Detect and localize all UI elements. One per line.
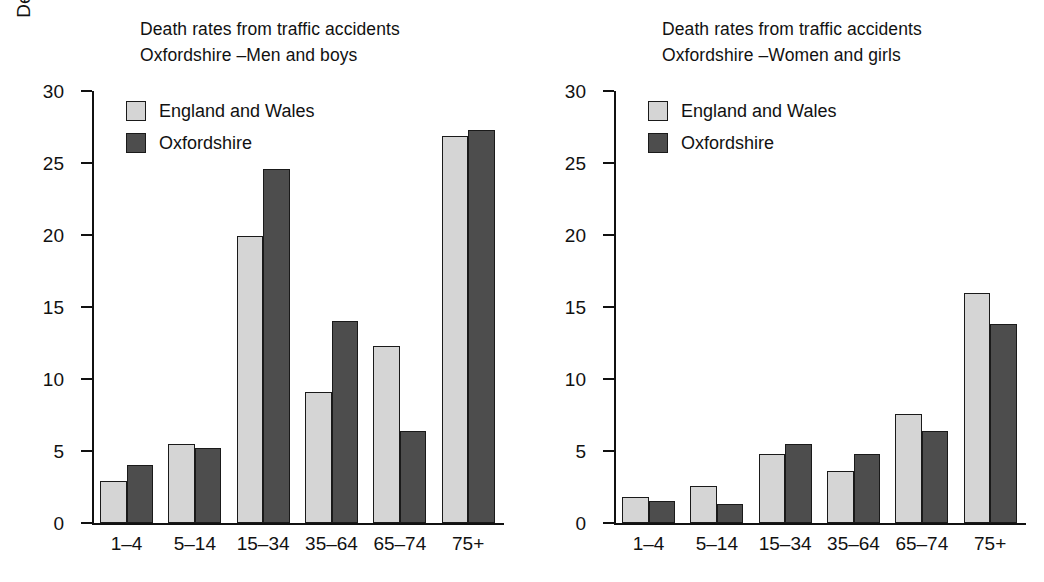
chart-panel-men-and-boys: Death rates from traffic accidents Oxfor… <box>0 0 522 582</box>
legend-swatch-icon-england-and-wales <box>648 101 668 121</box>
bar <box>649 501 676 523</box>
x-axis-tick-label: 5–14 <box>174 531 216 557</box>
y-axis-tick: 25 <box>603 162 614 164</box>
y-axis-tick-label: 20 <box>43 226 64 245</box>
legend-item-oxfordshire: Oxfordshire <box>648 127 836 159</box>
y-axis-tick-label: 20 <box>565 226 586 245</box>
bar <box>168 444 195 523</box>
bar <box>237 236 264 523</box>
legend-label: England and Wales <box>681 102 836 120</box>
y-axis-tick-label: 5 <box>53 442 64 461</box>
x-axis-tick-label: 5–14 <box>696 531 738 557</box>
y-axis-tick-label: 15 <box>565 298 586 317</box>
x-axis-tick-label: 1–4 <box>633 531 665 557</box>
y-axis-tick: 0 <box>81 522 92 524</box>
x-axis-tick-label: 1–4 <box>111 531 143 557</box>
x-axis-tick-label: 65–74 <box>895 531 948 557</box>
bar <box>622 497 649 523</box>
y-axis-tick: 5 <box>603 450 614 452</box>
y-axis-tick: 30 <box>81 90 92 92</box>
bar <box>442 136 469 523</box>
bar <box>827 471 854 523</box>
bar <box>964 293 991 523</box>
y-axis-tick-label: 15 <box>43 298 64 317</box>
bar <box>100 481 127 523</box>
x-axis-tick-label: 65–74 <box>373 531 426 557</box>
y-axis-tick-label: 25 <box>565 154 586 173</box>
y-axis-title: Deaths per 100,000 people <box>12 0 36 119</box>
y-axis-tick-label: 25 <box>43 154 64 173</box>
bar <box>127 465 154 523</box>
x-axis-line <box>92 523 504 525</box>
bar <box>717 504 744 523</box>
chart-title-line-1: Death rates from traffic accidents <box>140 16 400 42</box>
y-axis-title: Deaths per 100,000 <box>534 0 558 119</box>
legend-label: England and Wales <box>159 102 314 120</box>
bar <box>690 486 717 523</box>
bar <box>373 346 400 523</box>
legend-swatch-icon-oxfordshire <box>126 133 146 153</box>
bar <box>263 169 290 523</box>
legend-swatch-icon-oxfordshire <box>648 133 668 153</box>
y-axis-tick: 15 <box>603 306 614 308</box>
x-axis-tick-labels: 1–45–1415–3435–6465–7475+ <box>92 531 504 561</box>
legend-label: Oxfordshire <box>159 134 252 152</box>
bar <box>990 324 1017 523</box>
bar <box>332 321 359 523</box>
y-axis-tick: 10 <box>603 378 614 380</box>
chart-title: Death rates from traffic accidents Oxfor… <box>140 16 400 68</box>
y-axis-tick-label: 10 <box>43 370 64 389</box>
bar <box>305 392 332 523</box>
bar <box>922 431 949 523</box>
y-axis-tick: 20 <box>81 234 92 236</box>
y-axis-tick: 30 <box>603 90 614 92</box>
y-axis-tick-label: 10 <box>565 370 586 389</box>
y-axis-tick-label: 30 <box>565 82 586 101</box>
chart-title: Death rates from traffic accidents Oxfor… <box>662 16 922 68</box>
legend-swatch-icon-england-and-wales <box>126 101 146 121</box>
y-axis-tick: 25 <box>81 162 92 164</box>
y-axis-tick-label: 30 <box>43 82 64 101</box>
chart-title-line-2: Oxfordshire –Women and girls <box>662 42 922 68</box>
bar <box>195 448 222 523</box>
bar <box>468 130 495 523</box>
chart-panel-women-and-girls: Death rates from traffic accidents Oxfor… <box>522 0 1044 582</box>
y-axis-tick: 0 <box>603 522 614 524</box>
legend: England and Wales Oxfordshire <box>648 95 836 159</box>
x-axis-line <box>614 523 1026 525</box>
bar <box>895 414 922 523</box>
legend: England and Wales Oxfordshire <box>126 95 314 159</box>
x-axis-tick-labels: 1–45–1415–3435–6465–7475+ <box>614 531 1026 561</box>
x-axis-tick-label: 15–34 <box>237 531 290 557</box>
chart-title-line-1: Death rates from traffic accidents <box>662 16 922 42</box>
y-axis-tick-label: 0 <box>575 514 586 533</box>
bar <box>400 431 427 523</box>
y-axis-tick: 5 <box>81 450 92 452</box>
bar <box>759 454 786 523</box>
x-axis-tick-label: 35–64 <box>827 531 880 557</box>
x-axis-tick-label: 75+ <box>452 531 484 557</box>
y-axis-tick: 20 <box>603 234 614 236</box>
bar <box>785 444 812 523</box>
legend-item-england-and-wales: England and Wales <box>648 95 836 127</box>
legend-item-england-and-wales: England and Wales <box>126 95 314 127</box>
figure-two-panel-bar-charts: Death rates from traffic accidents Oxfor… <box>0 0 1044 582</box>
y-axis-tick: 10 <box>81 378 92 380</box>
legend-label: Oxfordshire <box>681 134 774 152</box>
y-axis-tick-label: 5 <box>575 442 586 461</box>
legend-item-oxfordshire: Oxfordshire <box>126 127 314 159</box>
bar <box>854 454 881 523</box>
x-axis-tick-label: 15–34 <box>759 531 812 557</box>
x-axis-tick-label: 75+ <box>974 531 1006 557</box>
y-axis-tick-label: 0 <box>53 514 64 533</box>
x-axis-tick-label: 35–64 <box>305 531 358 557</box>
y-axis-tick: 15 <box>81 306 92 308</box>
chart-title-line-2: Oxfordshire –Men and boys <box>140 42 400 68</box>
